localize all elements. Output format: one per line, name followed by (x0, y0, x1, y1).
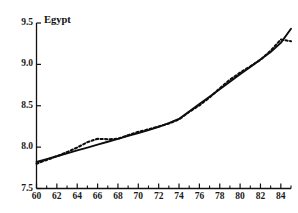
y-tick-label: 9.0 (2, 59, 33, 69)
x-tick-label: 84 (269, 192, 293, 202)
axes (37, 23, 292, 189)
x-axis-ticks (37, 184, 281, 189)
series-line-observed (37, 40, 292, 164)
y-tick-label: 8.5 (2, 101, 33, 111)
y-tick-label: 9.5 (2, 18, 33, 28)
y-tick-label: 8.0 (2, 142, 33, 152)
chart-container: Egypt 7.58.08.59.09.5 606264666870727476… (0, 0, 298, 213)
series-line-fitted (37, 29, 292, 162)
line-chart-plot (0, 0, 298, 213)
